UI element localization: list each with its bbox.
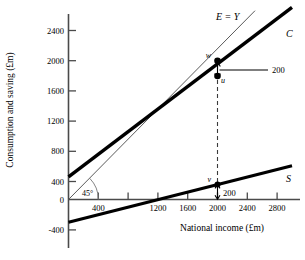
y-tick-label-minus400: -400: [48, 225, 64, 235]
x-tick-label-1200: 1200: [149, 203, 166, 213]
curve-label-s: S: [286, 173, 291, 184]
x-tick-label-1600: 1600: [179, 203, 196, 213]
y-tick-label-800: 800: [51, 146, 64, 156]
line-saving-s: [69, 166, 293, 223]
annotation-gap-bottom: 200: [223, 188, 236, 198]
curve-label-c: C: [286, 28, 293, 39]
x-tick-label-400: 400: [92, 203, 105, 213]
y-tick-label-2000: 2000: [47, 56, 64, 66]
angle-label: 45°: [82, 189, 93, 198]
line-consumption-c: [69, 7, 293, 177]
x-axis-title: National income (£m): [180, 223, 264, 234]
data-point-label-u: u: [221, 76, 225, 85]
annotation-gap-top: 200: [272, 65, 285, 75]
x-tick-label-2800: 2800: [269, 203, 286, 213]
x-tick-label-2400: 2400: [239, 203, 256, 213]
y-tick-label-0: 0: [60, 195, 64, 205]
data-point-w: [214, 57, 221, 64]
data-point-label-w: w: [206, 51, 212, 60]
gap-arrow-v: [215, 184, 220, 199]
curve-label-e-equals-y: E = Y: [215, 11, 241, 22]
y-tick-label-1600: 1600: [47, 86, 64, 96]
y-axis-title: Consumption and saving (£m): [5, 52, 16, 167]
data-point-label-v: v: [207, 175, 211, 184]
x-tick-label-2000: 2000: [209, 203, 226, 213]
y-tick-labels-group: 2400 2000 1600 1200 800 400 0 -400: [47, 26, 64, 235]
y-tick-label-1200: 1200: [47, 116, 64, 126]
chart-figure: 2400 2000 1600 1200 800 400 0 -400 400 1…: [0, 0, 305, 260]
y-tick-label-400: 400: [51, 177, 64, 187]
y-tick-label-2400: 2400: [47, 26, 64, 36]
chart-svg: 2400 2000 1600 1200 800 400 0 -400 400 1…: [0, 0, 305, 260]
data-point-u: [214, 73, 221, 80]
